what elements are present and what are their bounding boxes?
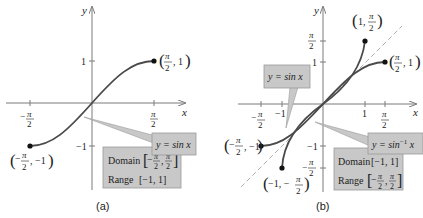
panel-a: x y − π 2 π 2 1 −1 ( π 2 , 1	[6, 4, 196, 212]
svg-text:−: −	[15, 153, 21, 164]
svg-text:): )	[185, 51, 191, 70]
svg-text:−: −	[20, 111, 25, 121]
svg-text:2: 2	[166, 162, 170, 171]
svg-text:): )	[304, 174, 310, 193]
svg-text:π: π	[165, 51, 170, 61]
svg-text:2: 2	[296, 186, 301, 196]
label-neg-pi-over-2-neg-1: ( − π 2 , −1 )	[10, 150, 54, 172]
svg-text:π: π	[309, 157, 314, 167]
x-tick-pi-over-2: π 2	[150, 109, 158, 129]
svg-text:π: π	[309, 30, 314, 40]
svg-text:π: π	[395, 52, 400, 62]
point-neg-1-neg-pi-over-2	[279, 165, 284, 170]
svg-text:π: π	[151, 109, 156, 119]
point-pi-over-2-1	[151, 58, 156, 63]
svg-text:2: 2	[27, 119, 32, 129]
domain-label: Domain	[108, 155, 140, 166]
point-pi-over-2-1	[382, 59, 387, 64]
svg-text:π: π	[22, 150, 27, 160]
svg-text:, 1: , 1	[403, 57, 413, 68]
svg-text:2: 2	[236, 147, 241, 157]
svg-text:, 1: , 1	[173, 56, 183, 67]
x-tick-neg-pi-over-2: − π 2	[251, 109, 265, 130]
svg-text:−: −	[229, 139, 235, 150]
panel-caption-a: (a)	[96, 200, 109, 212]
svg-text:2: 2	[390, 182, 394, 191]
x-tick-1: 1	[362, 108, 367, 119]
svg-text:): )	[377, 11, 383, 30]
figure: x y − π 2 π 2 1 −1 ( π 2 , 1	[0, 0, 423, 218]
svg-text:−1, −: −1, −	[268, 178, 290, 189]
y-tick-neg-1: −1	[76, 141, 87, 152]
point-1-pi-over-2	[362, 38, 367, 43]
svg-text:2: 2	[165, 63, 170, 73]
y-tick-1: 1	[81, 56, 86, 67]
label-1-pi-over-2: ( 1, π 2 )	[352, 11, 383, 33]
x-tick-pi-over-2: π 2	[381, 109, 389, 130]
svg-text:−: −	[147, 154, 153, 165]
svg-text:π: π	[236, 135, 241, 145]
svg-text:2: 2	[151, 119, 156, 129]
svg-text:2: 2	[382, 120, 387, 130]
svg-text:2: 2	[378, 182, 382, 191]
svg-text:π: π	[27, 109, 32, 119]
sin-callout-pointer	[286, 87, 298, 128]
svg-text:1,: 1,	[358, 16, 366, 27]
svg-text:]: ]	[397, 172, 402, 189]
function-label: y = sin x	[155, 139, 191, 150]
svg-text:π: π	[258, 109, 263, 119]
callout-pointer	[84, 117, 156, 144]
svg-text:−: −	[302, 162, 307, 172]
svg-text:π: π	[296, 174, 301, 184]
svg-text:2: 2	[309, 168, 314, 178]
svg-text:−: −	[251, 112, 256, 122]
domain-value: [−1, 1]	[371, 156, 398, 167]
svg-text:π: π	[382, 109, 387, 119]
label-pi-over-2-1: ( π 2 , 1 )	[159, 51, 191, 73]
sin-label: y = sin x	[267, 71, 303, 82]
svg-text:2: 2	[369, 23, 374, 33]
svg-text:π: π	[369, 11, 374, 21]
y-tick-neg-1: −1	[307, 141, 318, 152]
range-label: Range	[338, 175, 364, 186]
panel-b: x y − π 2 −1 1 π 2 π 2 1 −1	[224, 4, 423, 212]
svg-text:2: 2	[395, 64, 400, 74]
y-axis-label: y	[313, 4, 319, 16]
range-label: Range	[108, 174, 134, 185]
svg-text:): )	[415, 52, 421, 71]
x-tick-neg-1: −1	[275, 108, 286, 119]
label-pi-over-2-1: ( π 2 , 1 )	[389, 52, 421, 74]
svg-text:,: ,	[161, 155, 164, 166]
point-neg-pi-over-2-neg-1	[27, 143, 32, 148]
svg-text:,: ,	[385, 175, 388, 186]
x-tick-neg-pi-over-2: − π 2	[20, 109, 34, 129]
y-axis-label: y	[81, 4, 87, 16]
svg-text:2: 2	[258, 120, 263, 130]
arcsin-label-var: x	[407, 139, 415, 150]
domain-label: Domain	[338, 156, 370, 167]
svg-text:−: −	[371, 174, 377, 185]
x-axis-label: x	[181, 106, 187, 118]
label-neg-pi-over-2-neg-1: ( − π 2 , −1 )	[224, 135, 263, 157]
svg-text:): )	[257, 136, 263, 155]
svg-text:2: 2	[22, 162, 27, 172]
svg-text:2: 2	[154, 162, 158, 171]
svg-text:, −1: , −1	[30, 155, 46, 166]
x-axis-label: x	[412, 106, 418, 118]
range-value: [−1, 1]	[139, 174, 166, 185]
y-tick-1: 1	[312, 57, 317, 68]
svg-text:): )	[48, 151, 54, 170]
svg-text:2: 2	[309, 41, 314, 51]
panel-caption-b: (b)	[316, 200, 329, 212]
label-neg-1-neg-pi-over-2: ( −1, − π 2 )	[263, 174, 310, 196]
y-tick-pi-over-2: π 2	[308, 30, 316, 51]
arcsin-label-base: y = sin	[371, 139, 400, 150]
arcsin-label: y = sin−1 x	[371, 138, 415, 150]
